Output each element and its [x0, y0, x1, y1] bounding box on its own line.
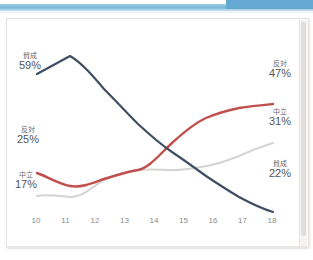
x-tick-label: 15: [179, 216, 188, 225]
label-neutral-start: 中立 17%: [4, 171, 48, 191]
vertical-scrollbar[interactable]: [299, 20, 307, 246]
x-tick-label: 11: [61, 216, 69, 225]
x-axis: 101112131415161718: [0, 216, 301, 230]
x-tick-label: 13: [120, 216, 129, 225]
x-tick-label: 17: [238, 216, 247, 225]
card-drop-shadow: [8, 246, 307, 249]
x-tick-label: 10: [32, 216, 41, 225]
label-neutral-end-value: 31%: [258, 116, 302, 128]
label-neutral-start-value: 17%: [4, 179, 48, 191]
label-agree-end: 賛成 22%: [258, 160, 302, 180]
label-oppose-end-name: 反対: [258, 60, 302, 67]
series-line-neutral: [37, 143, 273, 197]
label-agree-start-name: 賛成: [8, 52, 52, 59]
chart-svg: [7, 19, 308, 247]
label-neutral-end-name: 中立: [258, 108, 302, 115]
x-tick-label: 18: [268, 216, 277, 225]
series-line-agree: [37, 56, 273, 212]
label-neutral-start-name: 中立: [4, 171, 48, 178]
series-line-oppose: [37, 104, 273, 186]
label-oppose-start: 反対 25%: [6, 126, 50, 146]
screenshot-root: 賛成 59% 反対 25% 中立 17% 反対 47% 中立 31% 賛成 22…: [0, 0, 313, 260]
label-neutral-end: 中立 31%: [258, 108, 302, 128]
x-tick-label: 14: [150, 216, 159, 225]
label-agree-end-value: 22%: [258, 168, 302, 180]
x-tick-label: 16: [209, 216, 218, 225]
top-right-blue-block: [226, 0, 313, 9]
top-bar-underline: [0, 11, 313, 13]
label-oppose-end: 反対 47%: [258, 60, 302, 80]
x-tick-label: 12: [91, 216, 100, 225]
label-oppose-start-value: 25%: [6, 134, 50, 146]
label-agree-end-name: 賛成: [258, 160, 302, 167]
line-chart-plot: [7, 19, 308, 247]
scrollbar-thumb[interactable]: [301, 22, 306, 236]
label-agree-start: 賛成 59%: [8, 52, 52, 72]
label-oppose-start-name: 反対: [6, 126, 50, 133]
label-oppose-end-value: 47%: [258, 68, 302, 80]
label-agree-start-value: 59%: [8, 60, 52, 72]
